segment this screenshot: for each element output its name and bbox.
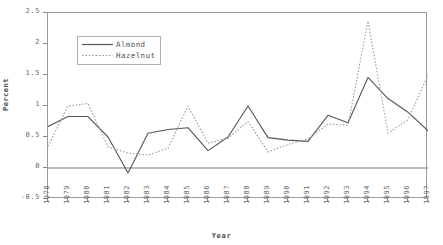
legend-swatch-solid-line-icon — [82, 41, 113, 48]
x-tick-label: 1990 — [283, 185, 291, 204]
chart-legend: Almond Hazelnut — [77, 36, 161, 65]
y-tick-label: -0.5 — [0, 194, 40, 201]
y-tick-label: 0.5 — [0, 132, 40, 139]
x-tick-label: 1996 — [403, 185, 411, 204]
y-tick-label: 1.5 — [0, 70, 40, 77]
x-tick-label: 1986 — [203, 185, 211, 204]
x-tick-label: 1992 — [323, 185, 331, 204]
legend-item-almond: Almond — [82, 39, 155, 50]
x-axis-title: Year — [0, 232, 443, 240]
x-tick-label: 1994 — [363, 185, 371, 204]
legend-label-hazelnut: Hazelnut — [116, 51, 155, 60]
legend-label-almond: Almond — [116, 40, 146, 49]
x-tick-label: 1989 — [263, 185, 271, 204]
chart-container: Percent -0.500.511.522.5 197819791980198… — [0, 0, 443, 245]
x-tick-label: 1982 — [123, 185, 131, 204]
x-tick-label: 1980 — [83, 185, 91, 204]
x-tick-label: 1997 — [423, 185, 431, 204]
x-tick-label: 1991 — [303, 185, 311, 204]
y-tick-label: 2 — [0, 39, 40, 46]
x-tick-label: 1979 — [63, 185, 71, 204]
x-tick-label: 1983 — [143, 185, 151, 204]
series-line-almond — [48, 77, 428, 172]
legend-item-hazelnut: Hazelnut — [82, 50, 155, 61]
y-tick-label: 0 — [0, 163, 40, 170]
x-tick-label: 1995 — [383, 185, 391, 204]
legend-swatch-dotted-line-icon — [82, 52, 113, 59]
x-tick-label: 1981 — [103, 185, 111, 204]
x-tick-label: 1984 — [163, 185, 171, 204]
y-tick-label: 1 — [0, 101, 40, 108]
x-tick-label: 1985 — [183, 185, 191, 204]
x-tick-label: 1978 — [43, 185, 51, 204]
y-tick-label: 2.5 — [0, 8, 40, 15]
x-tick-label: 1988 — [243, 185, 251, 204]
x-tick-label: 1987 — [223, 185, 231, 204]
x-tick-label: 1993 — [343, 185, 351, 204]
